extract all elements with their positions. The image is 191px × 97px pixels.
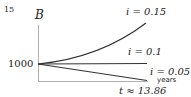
- line-i-0.1: [38, 64, 147, 65]
- series-label-mid: i = 0.1: [128, 47, 162, 57]
- curve-i-0.15: [38, 23, 146, 64]
- series-label-top: i = 0.15: [126, 7, 166, 17]
- x-annotation: t ≈ 13.86: [119, 86, 166, 96]
- x-axis-label: years: [157, 77, 176, 84]
- line-i-0.05: [38, 64, 147, 81]
